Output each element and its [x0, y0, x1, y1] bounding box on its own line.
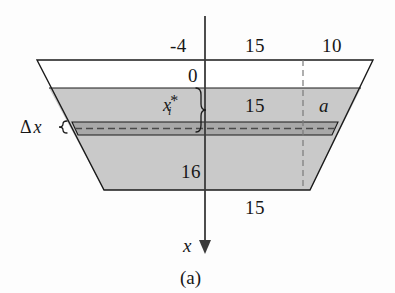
sample-point-superscript-star: *	[170, 92, 178, 109]
label-top-half-width: 15	[245, 36, 265, 55]
label-water-surface-zero: 0	[188, 66, 198, 85]
label-mid-half-width: 15	[245, 96, 265, 115]
figure-caption: (a)	[180, 268, 201, 287]
label-top-overhang: 10	[322, 36, 342, 55]
label-side-offset-a: a	[319, 96, 329, 115]
strip-thickness-brace	[59, 121, 67, 133]
down-arrow-icon	[199, 240, 211, 254]
delta-variable: x	[34, 117, 42, 137]
label-axis-variable: x	[183, 236, 191, 255]
label-depth-above-water: -4	[170, 36, 187, 55]
trapezoid-tank-figure: -4 15 10 0 15 a 16 15 xi* Δx x (a)	[0, 0, 395, 293]
label-bottom-depth: 16	[181, 162, 201, 181]
delta-symbol: Δ	[20, 117, 32, 137]
label-sample-point-xi-star: xi*	[163, 93, 178, 117]
label-bottom-half-width: 15	[245, 198, 265, 217]
label-strip-thickness-delta-x: Δx	[20, 118, 42, 136]
